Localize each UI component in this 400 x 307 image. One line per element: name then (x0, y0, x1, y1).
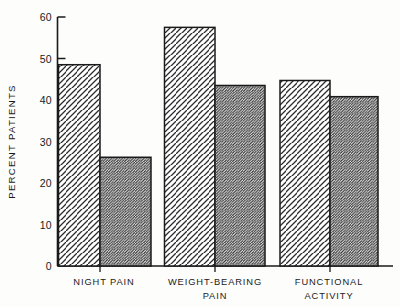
y-tick-label-30: 30 (40, 136, 52, 148)
category-label-night-pain: NIGHT PAIN (73, 277, 134, 287)
bar-functional-activity-series-1 (280, 80, 330, 266)
bar-night-pain-series-1 (59, 65, 101, 266)
bar-functional-activity-series-2 (330, 97, 378, 266)
y-tick-label-60: 60 (40, 11, 52, 23)
bar-chart-figure: 60 50 40 30 20 10 0 PERCENT PATIENTS (0, 0, 400, 307)
category-label-weight-bearing-pain-line2: PAIN (203, 291, 228, 301)
y-tick-label-0: 0 (46, 260, 52, 272)
category-label-functional-activity-line1: FUNCTIONAL (295, 277, 363, 287)
y-tick-label-40: 40 (40, 94, 52, 106)
bar-night-pain-series-2 (100, 157, 151, 266)
y-tick-label-50: 50 (40, 53, 52, 65)
chart-canvas: 60 50 40 30 20 10 0 PERCENT PATIENTS (0, 0, 400, 307)
bar-weight-bearing-pain-series-1 (165, 27, 216, 266)
bar-weight-bearing-pain-series-2 (215, 85, 265, 266)
y-tick-label-20: 20 (40, 177, 52, 189)
category-label-functional-activity-line2: ACTIVITY (304, 291, 353, 301)
y-axis-title: PERCENT PATIENTS (6, 84, 17, 199)
category-label-weight-bearing-pain-line1: WEIGHT-BEARING (168, 277, 262, 287)
y-tick-label-10: 10 (40, 219, 52, 231)
